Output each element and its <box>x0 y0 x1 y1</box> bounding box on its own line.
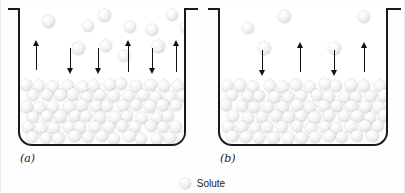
solution-region-b <box>220 80 386 144</box>
arrow-shaft <box>152 48 153 69</box>
solute-sphere <box>323 130 335 142</box>
solute-sphere <box>52 132 64 144</box>
arrow-up <box>360 42 369 72</box>
arrow-shaft <box>70 48 71 69</box>
arrow-up <box>32 40 41 70</box>
solute-sphere <box>180 21 186 33</box>
solute-sphere <box>41 110 53 122</box>
arrow-shaft <box>300 47 301 72</box>
solute-sphere <box>123 130 135 142</box>
solute-sphere <box>108 133 120 145</box>
solute-sphere <box>236 100 248 112</box>
solute-sphere <box>309 131 321 143</box>
solute-sphere <box>166 9 178 21</box>
solute-sphere <box>282 132 294 144</box>
solute-sphere <box>144 100 156 112</box>
solute-sphere <box>242 22 254 34</box>
solute-equilibrium-figure: (a) (b) Solute <box>0 0 405 193</box>
arrow-shaft <box>176 45 177 72</box>
arrow-down <box>94 48 103 74</box>
solute-sphere <box>98 9 111 22</box>
solute-sphere <box>164 132 176 144</box>
arrow-down <box>148 48 157 74</box>
solute-sphere <box>82 20 94 32</box>
solute-sphere <box>358 11 370 23</box>
solute-sphere <box>42 15 55 28</box>
solute-sphere <box>240 131 252 143</box>
arrow-shaft <box>334 50 335 71</box>
solute-sphere <box>145 79 157 91</box>
panel-label-b: (b) <box>220 152 236 165</box>
solute-sphere <box>295 132 307 144</box>
solute-sphere <box>101 100 113 112</box>
solute-sphere <box>41 89 53 101</box>
solute-sphere <box>226 130 238 142</box>
beaker-a <box>18 8 186 146</box>
sphere-icon <box>180 178 191 189</box>
solute-sphere <box>124 21 136 33</box>
solute-sphere <box>170 99 182 111</box>
arrow-up <box>172 40 181 72</box>
arrow-shaft <box>36 45 37 70</box>
solute-sphere <box>40 132 52 144</box>
solute-sphere <box>67 88 79 100</box>
solute-sphere <box>366 130 378 142</box>
solute-sphere <box>54 110 66 122</box>
panel-label-a: (a) <box>20 152 35 165</box>
solute-sphere <box>130 99 142 111</box>
panel-b: (b) <box>203 0 405 193</box>
solute-sphere <box>278 10 291 23</box>
solution-region-a <box>20 80 184 144</box>
solute-sphere <box>115 78 127 90</box>
solute-sphere <box>330 80 342 92</box>
solute-sphere <box>336 131 348 143</box>
panel-a: (a) <box>0 0 203 193</box>
solute-sphere <box>158 80 170 92</box>
solute-sphere <box>68 130 80 142</box>
arrow-down <box>66 48 75 74</box>
solute-sphere <box>27 89 39 101</box>
solute-sphere <box>135 133 147 145</box>
solute-sphere <box>378 89 388 101</box>
solute-sphere <box>54 89 66 101</box>
solute-sphere <box>276 121 288 133</box>
solute-sphere <box>291 120 303 132</box>
solute-sphere <box>267 132 279 144</box>
solute-sphere <box>82 131 94 143</box>
solute-sphere <box>253 131 265 143</box>
arrow-down <box>258 50 267 76</box>
solute-sphere <box>146 24 158 36</box>
solute-sphere <box>26 131 38 143</box>
arrow-down <box>330 50 339 76</box>
solute-sphere <box>345 79 357 91</box>
arrow-shaft <box>262 50 263 71</box>
solute-sphere <box>351 130 363 142</box>
solute-sphere <box>96 130 108 142</box>
arrow-shaft <box>128 45 129 72</box>
solute-sphere <box>264 80 276 92</box>
arrow-shaft <box>364 47 365 72</box>
arrow-shaft <box>98 48 99 69</box>
solute-sphere <box>323 109 335 121</box>
arrow-up <box>296 42 305 72</box>
solute-sphere <box>177 132 186 144</box>
solute-sphere <box>145 120 157 132</box>
legend: Solute <box>0 178 405 189</box>
solute-sphere <box>151 133 163 145</box>
arrow-up <box>124 40 133 72</box>
legend-label: Solute <box>197 178 225 189</box>
beaker-b <box>218 8 388 146</box>
